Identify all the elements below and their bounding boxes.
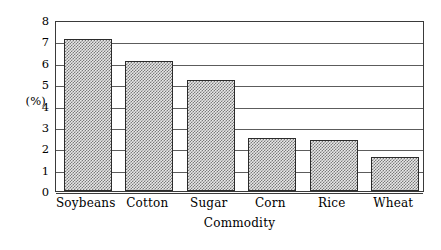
y-axis-tick-group: 012345678 [0,21,49,192]
x-axis-tick-label: Wheat [363,196,425,210]
y-axis-tick-label: 3 [15,122,49,134]
bar [371,157,419,191]
x-axis-tick-label: Corn [240,196,302,210]
y-axis-tick-label: 8 [15,15,49,27]
y-axis-tick-label: 4 [15,101,49,113]
x-axis-tick-group: SoybeansCottonSugarCornRiceWheat [55,196,424,214]
bar [310,140,358,191]
bar [64,39,112,191]
y-axis-tick-label: 5 [15,79,49,91]
x-axis-tick-label: Cotton [117,196,179,210]
y-axis-tick-label: 6 [15,58,49,70]
gridline [56,193,423,194]
bar [125,61,173,191]
y-axis-tick-label: 2 [15,143,49,155]
plot-area [55,21,424,192]
x-axis-title: Commodity [55,216,424,230]
x-axis-tick-label: Sugar [178,196,240,210]
y-axis-tick-label: 1 [15,165,49,177]
x-axis-tick-label: Rice [301,196,363,210]
bar [187,80,235,191]
bar-chart-figure: (%) 012345678 SoybeansCottonSugarCornRic… [0,0,441,250]
x-axis-tick-label: Soybeans [55,196,117,210]
y-axis-tick-label: 0 [15,186,49,198]
y-axis-tick-label: 7 [15,36,49,48]
bar-group [56,22,423,191]
bar [248,138,296,191]
